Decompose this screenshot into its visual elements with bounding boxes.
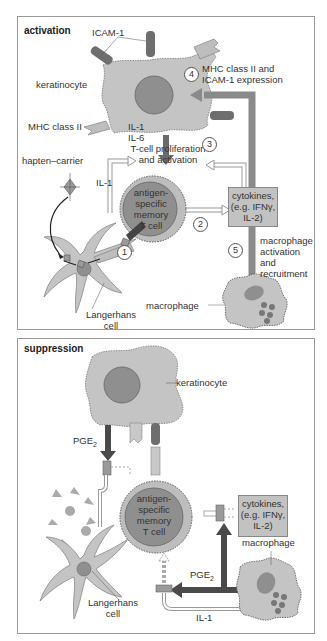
step-2-badge: 2 [193,217,208,232]
macrophage-cell [223,274,287,328]
keratinocyte-label: keratinocyte [176,377,227,388]
icam-label: ICAM-1 [92,27,124,38]
il1-langerhans-label: IL-1 [96,177,112,188]
langerhans-label-1: Langerhans [76,309,146,320]
il1-label: IL-1 [128,121,144,132]
activation-title: activation [24,25,71,36]
activation-panel: activation ICAM-1 keratinocyte MHC class… [17,16,315,330]
tcell-text: antigen- specific memory T cell [124,187,178,231]
tcell-proliferation-label-2: and activation [118,154,218,165]
il6-label: IL-6 [128,132,144,143]
cytokines-box: cytokines, (e.g. IFNγ, IL-2) [228,187,278,227]
mhc-class-ii-label: MHC class II [28,121,82,132]
il1-label: IL-1 [196,612,212,623]
langerhans-label-2: cell [76,320,146,331]
langerhans-label-1: Langerhans [78,597,148,608]
macrophage-activation-label-4: recruitment [260,268,308,279]
step-3-badge: 3 [202,137,217,152]
keratinocyte-cell [85,346,182,427]
macrophage-activation-label-3: and [260,257,276,268]
step-5-badge: 5 [228,243,243,258]
step-4-badge: 4 [184,67,199,82]
cytokines-box: cytokines, (e.g. IFNγ, IL-2) [238,495,288,537]
hapten-carrier-icon [60,173,80,201]
suppression-title: suppression [24,343,83,354]
macrophage-label: macrophage [242,537,295,548]
mhc-expression-label-1: MHC class II and [202,63,274,74]
langerhans-label-2: cell [78,608,148,619]
hapten-carrier-label: hapten–carrier [22,155,83,166]
macrophage-activation-label-1: macrophage [260,235,313,246]
keratinocyte-label: keratinocyte [36,79,87,90]
suppression-panel: suppression keratinocyte PGE2 antigen- s… [17,338,315,634]
tcell-text: antigen- specific memory T cell [126,493,182,537]
pge2-keratinocyte-label: PGE2 [73,435,97,450]
step-1-badge: 1 [117,245,132,260]
pge2-macrophage-label: PGE2 [190,569,214,584]
macrophage-cell [237,558,302,620]
mhc-expression-label-2: ICAM-1 expression [202,74,283,85]
macrophage-activation-label-2: activation [260,246,300,257]
suppression-diagram-svg [18,339,314,633]
macrophage-label: macrophage [146,300,199,311]
